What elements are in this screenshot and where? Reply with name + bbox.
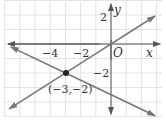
plotted-lines — [9, 16, 155, 116]
intersection-point — [63, 70, 69, 76]
intersection-label: (−3,−2) — [48, 83, 93, 96]
y-tick-label-neg2: −2 — [93, 67, 109, 80]
x-tick-label-neg2: −2 — [73, 47, 89, 60]
y-axis-label: y — [113, 3, 121, 17]
x-axis-label: x — [146, 46, 153, 60]
x-tick-label-neg4: −4 — [42, 47, 58, 60]
origin-label: O — [113, 46, 123, 60]
y-tick-label-2: 2 — [100, 11, 107, 24]
coordinate-graph: y x O −4 −2 2 −2 (−3,−2) — [0, 0, 166, 121]
line-2 — [83, 81, 155, 115]
